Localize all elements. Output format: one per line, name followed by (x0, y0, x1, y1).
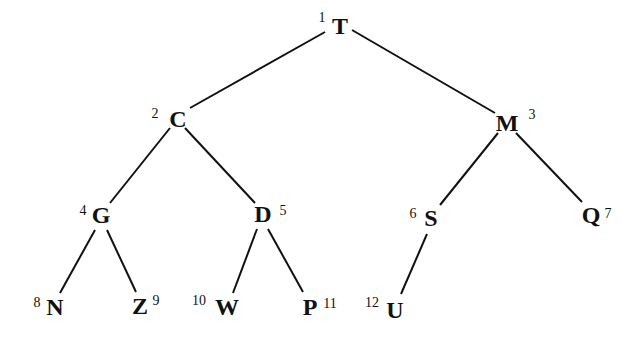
tree-edge-n2-n5 (185, 128, 255, 203)
node-label: U (386, 297, 403, 323)
node-label: P (303, 294, 318, 320)
tree-edge-n2-n4 (110, 128, 170, 203)
node-label: T (332, 13, 348, 39)
tree-node-d: D5 (254, 201, 286, 227)
node-index: 4 (80, 203, 87, 218)
node-label: C (169, 106, 186, 132)
node-index: 3 (529, 107, 536, 122)
node-label: S (424, 205, 437, 231)
tree-edge-n3-n7 (516, 133, 582, 202)
tree-edge-n1-n2 (190, 32, 325, 108)
node-index: 9 (153, 293, 160, 308)
tree-edge-n4-n9 (107, 230, 136, 292)
tree-node-u: U12 (365, 295, 404, 323)
tree-node-p: P11 (303, 294, 337, 320)
tree-edge-n3-n6 (440, 133, 498, 205)
tree-node-s: S6 (410, 205, 438, 231)
node-index: 12 (365, 295, 379, 310)
tree-node-n: N8 (34, 294, 65, 320)
node-index: 6 (410, 206, 417, 221)
node-index: 2 (152, 106, 159, 121)
tree-edge-n6-n12 (401, 234, 427, 294)
tree-edges (60, 30, 582, 294)
node-label: M (496, 110, 519, 136)
node-index: 7 (605, 206, 612, 221)
tree-edge-n5-n10 (233, 229, 257, 293)
tree-node-c: C2 (152, 106, 187, 132)
node-label: N (46, 294, 64, 320)
node-label: Q (582, 202, 601, 228)
tree-edge-n1-n3 (352, 30, 495, 113)
binary-tree-diagram: T1C2M3G4D5S6Q7N8Z9W10P11U12 (0, 0, 641, 340)
node-index: 8 (34, 295, 41, 310)
tree-node-q: Q7 (582, 202, 612, 228)
node-label: D (254, 201, 271, 227)
node-label: G (92, 202, 111, 228)
tree-node-z: Z9 (132, 293, 160, 319)
node-index: 1 (319, 10, 326, 25)
tree-node-m: M3 (496, 107, 536, 136)
node-index: 5 (280, 203, 287, 218)
node-index: 11 (323, 296, 336, 311)
tree-node-t: T1 (319, 10, 349, 39)
tree-edge-n5-n11 (268, 229, 303, 292)
node-index: 10 (192, 293, 206, 308)
tree-node-w: W10 (192, 293, 239, 320)
node-label: W (215, 294, 239, 320)
tree-nodes: T1C2M3G4D5S6Q7N8Z9W10P11U12 (34, 10, 612, 323)
node-label: Z (132, 293, 148, 319)
tree-node-g: G4 (80, 202, 111, 228)
tree-edge-n4-n8 (60, 230, 95, 293)
